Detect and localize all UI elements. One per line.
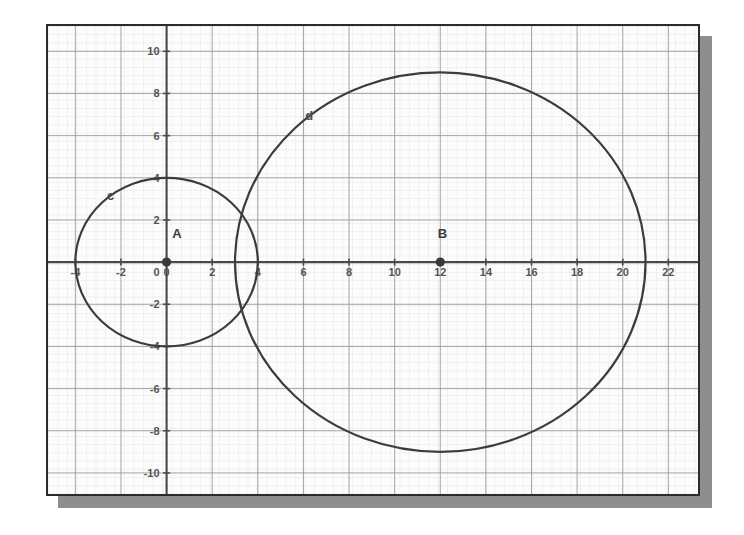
y-tick-label: 6 <box>153 130 159 142</box>
x-tick-label: -2 <box>116 266 126 278</box>
point-label-A: A <box>172 226 182 241</box>
y-tick-label: 10 <box>147 45 159 57</box>
x-tick-label: 16 <box>525 266 537 278</box>
x-tick-label: 10 <box>389 266 401 278</box>
coordinate-plane[interactable]: -4-20246810121416182022-10-8-6-4-2246810… <box>48 26 698 494</box>
x-tick-label: 22 <box>662 266 674 278</box>
circle-label-d: d <box>305 108 313 123</box>
y-tick-label: -6 <box>150 383 160 395</box>
x-tick-label: 20 <box>617 266 629 278</box>
point-label-B: B <box>438 226 447 241</box>
minor-grid <box>48 26 698 494</box>
x-tick-label: 0 <box>164 266 170 278</box>
x-tick-label: 18 <box>571 266 583 278</box>
point-A[interactable] <box>162 258 171 267</box>
x-tick-label: 12 <box>434 266 446 278</box>
y-tick-label: -2 <box>150 298 160 310</box>
graph-scene: -4-20246810121416182022-10-8-6-4-2246810… <box>0 0 744 535</box>
circle-label-c: c <box>107 188 114 203</box>
y-tick-label: -10 <box>144 467 160 479</box>
y-tick-label: 2 <box>153 214 159 226</box>
x-tick-label: 14 <box>480 266 493 278</box>
graph-plot-window[interactable]: -4-20246810121416182022-10-8-6-4-2246810… <box>46 24 700 496</box>
x-tick-label: 2 <box>209 266 215 278</box>
point-B[interactable] <box>436 258 445 267</box>
y-tick-label: -8 <box>150 425 160 437</box>
y-tick-label: 8 <box>153 87 159 99</box>
origin-label: 0 <box>153 266 159 278</box>
x-tick-label: 6 <box>300 266 306 278</box>
x-tick-label: 8 <box>346 266 352 278</box>
